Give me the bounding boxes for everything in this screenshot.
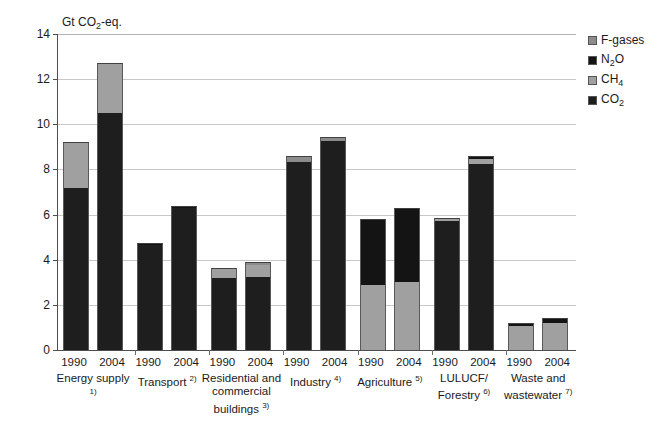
y-tick-mark xyxy=(53,124,57,125)
x-category-name: Waste and wastewater 7) xyxy=(498,372,578,403)
y-tick-label: 8 xyxy=(43,163,50,175)
x-group-separator xyxy=(209,350,210,355)
x-group-label-agriculture: 19902004Agriculture 5) xyxy=(350,356,430,389)
x-group-separator xyxy=(506,350,507,355)
bar-transport-1990 xyxy=(137,243,163,350)
x-category-name: Residential and commercial buildings 3) xyxy=(201,372,281,416)
bar-segment-co2 xyxy=(245,277,271,350)
y-tick-mark xyxy=(53,169,57,170)
legend-label: F-gases xyxy=(601,33,644,47)
y-tick-label: 6 xyxy=(43,209,50,221)
legend-label: CO2 xyxy=(601,92,624,108)
y-tick-label: 10 xyxy=(37,118,50,130)
legend-item-n2o[interactable]: N2O xyxy=(588,50,644,70)
y-tick-mark xyxy=(53,34,57,35)
bar-agriculture-2004 xyxy=(394,208,420,350)
legend-swatch-icon xyxy=(588,96,597,105)
y-tick-label: 12 xyxy=(37,73,50,85)
y-tick-label: 4 xyxy=(43,254,50,266)
bar-segment-co2 xyxy=(320,141,346,350)
gridline xyxy=(58,169,576,170)
bar-segment-co2 xyxy=(286,162,312,350)
bar-agriculture-1990 xyxy=(360,219,386,350)
bar-residential-and-commercial-buildings-2004 xyxy=(245,262,271,350)
bar-segment-ch4 xyxy=(97,63,123,113)
y-tick-mark xyxy=(53,79,57,80)
x-year-labels: 19902004 xyxy=(498,356,578,370)
bar-segment-ch4 xyxy=(245,265,271,276)
bar-residential-and-commercial-buildings-1990 xyxy=(211,268,237,350)
bar-energy-supply-1990 xyxy=(63,142,89,350)
legend-item-f-gases[interactable]: F-gases xyxy=(588,30,644,50)
bar-segment-ch4 xyxy=(542,323,568,350)
x-category-name: Industry 4) xyxy=(276,372,356,389)
legend-label: N2O xyxy=(601,52,624,68)
legend: F-gasesN2OCH4CO2 xyxy=(588,30,644,110)
x-year-label: 2004 xyxy=(320,356,350,370)
x-year-label: 2004 xyxy=(468,356,498,370)
y-tick-mark xyxy=(53,350,57,351)
x-group-label-industry: 19902004Industry 4) xyxy=(276,356,356,389)
bar-segment-co2 xyxy=(137,245,163,350)
y-tick-label: 0 xyxy=(43,344,50,356)
x-year-label: 2004 xyxy=(394,356,424,370)
x-year-label: 1990 xyxy=(207,356,237,370)
y-tick-mark xyxy=(53,215,57,216)
x-year-labels: 19902004 xyxy=(53,356,133,370)
legend-swatch-icon xyxy=(588,36,597,45)
bar-segment-ch4 xyxy=(211,268,237,278)
y-axis-line xyxy=(57,34,58,351)
gridline xyxy=(58,124,576,125)
y-tick-label: 14 xyxy=(37,28,50,40)
x-year-labels: 19902004 xyxy=(201,356,281,370)
bar-segment-co2 xyxy=(171,208,197,350)
bar-industry-1990 xyxy=(286,156,312,350)
bar-segment-ch4 xyxy=(360,285,386,350)
bar-segment-n2o xyxy=(360,219,386,284)
x-year-label: 1990 xyxy=(59,356,89,370)
x-year-label: 1990 xyxy=(356,356,386,370)
x-year-labels: 19902004 xyxy=(127,356,207,370)
bar-lulucf-forestry-1990 xyxy=(434,218,460,350)
gridline xyxy=(58,305,576,306)
emissions-stacked-bar-chart: Gt CO2-eq. 02468101214 19902004Energy su… xyxy=(0,0,658,428)
bar-segment-co2 xyxy=(97,113,123,350)
x-group-separator xyxy=(432,350,433,355)
bar-industry-2004 xyxy=(320,137,346,350)
plot-area: 02468101214 xyxy=(57,34,576,351)
bar-waste-and-wastewater-1990 xyxy=(508,323,534,350)
x-group-label-energy-supply: 19902004Energy supply 1) xyxy=(53,356,133,402)
legend-swatch-icon xyxy=(588,76,597,85)
bar-energy-supply-2004 xyxy=(97,63,123,350)
x-category-name: Energy supply 1) xyxy=(53,372,133,403)
legend-label: CH4 xyxy=(601,72,623,88)
y-tick-label: 2 xyxy=(43,299,50,311)
legend-item-co2[interactable]: CO2 xyxy=(588,90,644,110)
x-year-label: 2004 xyxy=(97,356,127,370)
bar-lulucf-forestry-2004 xyxy=(468,156,494,350)
bar-segment-co2 xyxy=(211,278,237,350)
bar-transport-2004 xyxy=(171,206,197,350)
bar-segment-n2o xyxy=(394,208,420,282)
x-year-label: 1990 xyxy=(504,356,534,370)
x-category-name: Transport 2) xyxy=(127,372,207,389)
bar-segment-ch4 xyxy=(508,326,534,350)
x-year-label: 2004 xyxy=(542,356,572,370)
x-group-separator xyxy=(358,350,359,355)
x-group-label-residential-and-commercial-buildings: 19902004Residential and commercial build… xyxy=(201,356,281,416)
legend-swatch-icon xyxy=(588,56,597,65)
gridline xyxy=(58,260,576,261)
x-year-label: 1990 xyxy=(282,356,312,370)
x-category-name: LULUCF/ Forestry 6) xyxy=(424,372,504,403)
gridline xyxy=(58,34,576,35)
legend-item-ch4[interactable]: CH4 xyxy=(588,70,644,90)
x-group-separator xyxy=(283,350,284,355)
x-category-name: Agriculture 5) xyxy=(350,372,430,389)
x-group-label-lulucf-forestry: 19902004LULUCF/ Forestry 6) xyxy=(424,356,504,402)
x-group-label-transport: 19902004Transport 2) xyxy=(127,356,207,389)
y-tick-mark xyxy=(53,260,57,261)
x-year-label: 1990 xyxy=(430,356,460,370)
bar-segment-ch4 xyxy=(63,142,89,187)
x-year-label: 1990 xyxy=(133,356,163,370)
bar-segment-co2 xyxy=(468,164,494,350)
